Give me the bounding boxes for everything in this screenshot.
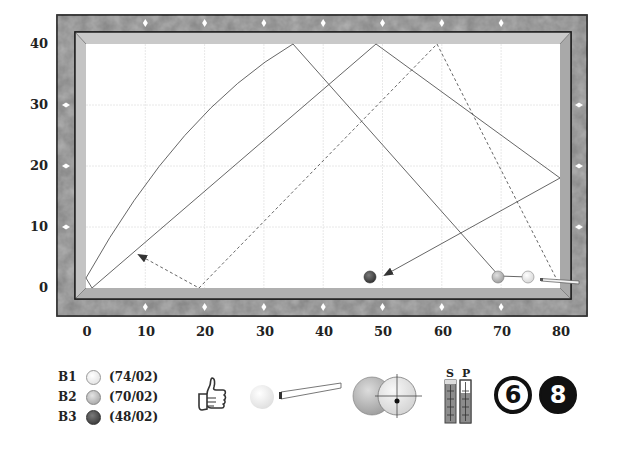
difficulty-number: 6: [505, 381, 522, 409]
legend-b3-label: B3: [58, 410, 82, 424]
ball-b2[interactable]: [492, 271, 504, 283]
spin-power-gauges[interactable]: [444, 379, 474, 424]
legend-b2-position: (70/02): [109, 390, 158, 404]
legend-b2-label: B2: [58, 390, 82, 404]
power-gauge: [460, 380, 471, 423]
legend-b3-ball-icon: [86, 410, 101, 425]
legend-b1-position: (74/02): [109, 370, 158, 384]
thumbs-up-icon[interactable]: [196, 376, 230, 416]
contact-point-icon: [395, 399, 400, 404]
ball-b3[interactable]: [364, 271, 376, 283]
legend-b1-ball-icon: [86, 370, 101, 385]
legend-b3: B3 (48/02): [58, 407, 158, 427]
legend-b1: B1 (74/02): [58, 367, 158, 387]
cue-stick-icon: [281, 383, 341, 399]
cue-ball-icon: [250, 385, 274, 409]
billiard-table[interactable]: [0, 0, 619, 345]
legend-b2: B2 (70/02): [58, 387, 158, 407]
difficulty-ball-6: 6: [494, 376, 532, 414]
eight-ball-icon: 8: [539, 376, 577, 414]
legend-b3-position: (48/02): [109, 410, 158, 424]
ball-b1[interactable]: [522, 271, 534, 283]
eight-ball-number: 8: [550, 381, 567, 409]
cue-shot-icon[interactable]: [248, 378, 343, 414]
spin-gauge: [445, 380, 456, 423]
legend-b1-label: B1: [58, 370, 82, 384]
legend-b2-ball-icon: [86, 390, 101, 405]
ball-contact-icon[interactable]: [350, 371, 430, 419]
